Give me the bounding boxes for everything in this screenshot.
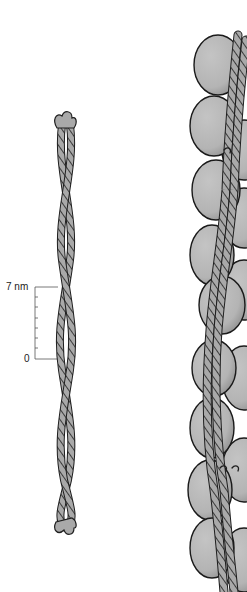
coiled-coil-strand <box>55 112 76 535</box>
diagram-canvas <box>0 0 247 592</box>
scale-bar <box>35 287 58 359</box>
